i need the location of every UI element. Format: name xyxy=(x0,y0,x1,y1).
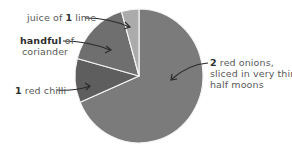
label-onion: 2 red onions, sliced in very thin half m… xyxy=(210,57,292,90)
label-lime: juice of 1 lime xyxy=(27,12,96,23)
label-chilli: 1 red chilli xyxy=(15,85,66,96)
pie-slices xyxy=(75,9,203,143)
label-coriander: handful of coriander xyxy=(20,35,74,57)
